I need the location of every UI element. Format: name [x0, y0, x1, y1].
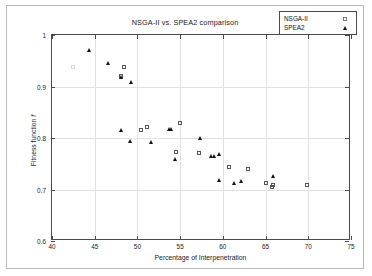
y-tick	[51, 241, 55, 242]
x-tick	[137, 236, 138, 240]
data-point-spea2	[217, 152, 221, 156]
data-point-nsga-ii	[174, 150, 178, 154]
data-point-spea2	[128, 139, 132, 143]
data-point-nsga-ii	[246, 167, 250, 171]
x-tick-label: 60	[219, 243, 226, 250]
x-tick	[180, 236, 181, 240]
y-tick-label: 0.9	[37, 83, 46, 90]
x-tick	[351, 35, 352, 39]
x-tick-label: 40	[48, 243, 55, 250]
data-point-spea2	[129, 80, 133, 84]
data-point-spea2	[119, 75, 123, 79]
data-point-nsga-ii	[139, 128, 143, 132]
open-square-icon	[338, 17, 352, 21]
y-tick	[345, 190, 349, 191]
data-point-spea2	[173, 157, 177, 161]
legend-label-nsga-ii: NSGA-II	[284, 15, 338, 22]
gridline-horizontal	[52, 190, 349, 191]
y-axis-label-text: Fitness function	[30, 117, 37, 167]
data-point-spea2	[106, 61, 110, 65]
x-axis-label: Percentage of Interpenetration	[51, 254, 350, 261]
data-point-nsga-ii	[145, 125, 149, 129]
plot-axes: 40455055606570750.60.70.80.91	[51, 34, 350, 240]
x-tick	[351, 236, 352, 240]
y-tick-label: 0.6	[37, 238, 46, 245]
gridline-vertical	[308, 35, 309, 239]
y-tick	[51, 35, 55, 36]
x-tick	[137, 35, 138, 39]
x-tick	[308, 236, 309, 240]
data-point-spea2	[271, 174, 275, 178]
y-tick-label: 0.7	[37, 186, 46, 193]
data-point-nsga-ii	[271, 183, 275, 187]
legend-entry-nsga-ii: NSGA-II	[280, 14, 356, 23]
x-tick-label: 45	[91, 243, 98, 250]
x-tick	[308, 35, 309, 39]
gridline-vertical	[223, 35, 224, 239]
data-point-spea2	[149, 140, 153, 144]
x-tick	[266, 35, 267, 39]
data-point-nsga-ii	[122, 65, 126, 69]
y-tick-label: 0.8	[37, 135, 46, 142]
data-point-spea2	[232, 181, 236, 185]
data-point-spea2	[119, 128, 123, 132]
y-tick	[51, 138, 55, 139]
y-tick-label: 1	[42, 32, 46, 39]
data-point-nsga-ii	[178, 121, 182, 125]
figure-panel: NSGA-II vs. SPEA2 comparison 40455055606…	[6, 5, 364, 269]
data-point-spea2	[169, 127, 173, 131]
y-tick	[345, 138, 349, 139]
x-tick	[180, 35, 181, 39]
y-tick	[51, 190, 55, 191]
y-axis-label-symbol: f	[30, 115, 37, 117]
data-point-nsga-ii	[71, 65, 75, 69]
x-tick-label: 70	[305, 243, 312, 250]
y-tick	[345, 35, 349, 36]
data-point-spea2	[239, 179, 243, 183]
gridline-vertical	[266, 35, 267, 239]
x-tick-label: 50	[134, 243, 141, 250]
x-tick-label: 65	[262, 243, 269, 250]
y-axis-label: Fitness function f	[30, 66, 37, 216]
x-tick	[95, 236, 96, 240]
x-tick	[95, 35, 96, 39]
legend-label-spea2: SPEA2	[284, 24, 338, 31]
x-tick	[52, 236, 53, 240]
x-tick	[266, 236, 267, 240]
data-point-spea2	[217, 178, 221, 182]
x-tick-label: 55	[177, 243, 184, 250]
gridline-vertical	[95, 35, 96, 239]
legend: NSGA-II SPEA2	[279, 11, 357, 35]
gridline-vertical	[180, 35, 181, 239]
legend-entry-spea2: SPEA2	[280, 23, 356, 32]
data-point-spea2	[212, 154, 216, 158]
data-point-spea2	[198, 136, 202, 140]
x-tick	[223, 236, 224, 240]
x-tick-label: 75	[347, 243, 354, 250]
data-point-nsga-ii	[264, 181, 268, 185]
data-point-nsga-ii	[227, 165, 231, 169]
y-tick	[51, 87, 55, 88]
gridline-vertical	[137, 35, 138, 239]
data-point-spea2	[87, 48, 91, 52]
data-point-nsga-ii	[305, 183, 309, 187]
y-tick	[345, 241, 349, 242]
y-tick	[345, 87, 349, 88]
filled-triangle-icon	[338, 26, 352, 30]
gridline-horizontal	[52, 87, 349, 88]
data-point-nsga-ii	[197, 151, 201, 155]
x-tick	[223, 35, 224, 39]
